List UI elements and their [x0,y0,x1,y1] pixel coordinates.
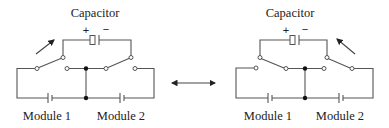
right-circuit: Capacitor + − Module 1 Module 2 [236,6,373,123]
switch-2-arm [328,59,350,69]
switch-2-pivot [129,56,133,60]
switch-2-contact-a [322,67,326,71]
outer-left-wire [236,68,268,98]
junction-dot [303,66,307,70]
outer-right-wire [343,69,373,99]
switch-direction-arrow-icon [36,40,54,54]
module-1-label: Module 1 [23,109,71,123]
switch-1-contact-b [284,67,288,71]
switch-1-contact-a [254,66,258,70]
capacitor-left-wire [63,40,90,57]
left-circuit: Capacitor + − Module 1 Module 2 [17,6,154,123]
capacitor-right-wire [99,40,131,57]
outer-left-wire [17,69,48,99]
minus-sign: − [302,23,308,35]
junction-dot [84,66,88,70]
switch-2-contact-a [104,67,108,71]
diagram-canvas: Capacitor + − Module 1 Module 2 [0,0,389,128]
capacitor-label: Capacitor [71,6,120,20]
switch-1-contact-b [65,67,69,71]
switch-2-contact-b [350,67,354,71]
switch-1-pivot [61,56,65,60]
module-2-label: Module 2 [316,109,364,123]
junction-dot [84,96,88,100]
module-2-label: Module 2 [97,109,145,123]
outer-right-wire [124,69,154,99]
capacitor-left-wire [260,40,290,57]
switch-2-arm [108,58,130,68]
switch-1-arm [261,59,284,69]
junction-dot [303,96,307,100]
capacitor-right-wire [299,40,327,57]
plus-sign: + [83,24,89,36]
switch-1-contact-a [35,67,39,71]
plus-sign: + [283,24,289,36]
switch-direction-arrow-icon [337,39,355,54]
minus-sign: − [103,23,109,35]
capacitor-icon [290,36,295,45]
switch-1-arm [39,58,62,68]
capacitor-label: Capacitor [266,6,315,20]
capacitor-icon [90,36,95,45]
module-1-label: Module 1 [244,109,292,123]
switch-2-contact-b [133,67,137,71]
